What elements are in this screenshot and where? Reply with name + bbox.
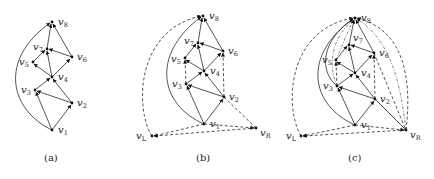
node-label-v5: v5: [19, 56, 29, 69]
node-label-v7: v7: [33, 41, 43, 54]
figure-diagram: v1 v2 v3 v4 v5 v6 v7 v8 (a): [0, 0, 434, 179]
panel-c: v1 v2 v3 v4 v5 v6 v7 v8 vL vR (c): [286, 12, 422, 163]
panel-b-edges: [142, 16, 256, 136]
caption-b: (b): [196, 152, 210, 163]
node-label-v2: v2: [229, 91, 239, 104]
panel-a: v1 v2 v3 v4 v5 v6 v7 v8 (a): [16, 16, 87, 163]
node-label-v6: v6: [228, 45, 238, 58]
node-label-v3: v3: [21, 84, 31, 97]
node-label-v8: v8: [58, 16, 68, 29]
node-label-v3: v3: [323, 80, 333, 93]
node-label-v1: v1: [361, 119, 371, 132]
panel-b: v1 v2 v3 v4 v5 v6 v7 v8 vL vR (b): [136, 10, 272, 163]
node-label-v2: v2: [77, 97, 87, 110]
node-label-v4: v4: [361, 67, 371, 80]
node-label-v1: v1: [210, 118, 220, 131]
node-label-v6: v6: [77, 51, 87, 64]
node-label-v7: v7: [184, 35, 194, 48]
node-label-v1: v1: [58, 124, 68, 137]
node-label-vL: vL: [286, 130, 297, 143]
node-label-v3: v3: [172, 78, 182, 91]
node-label-v4: v4: [58, 71, 68, 84]
node-label-vR: vR: [260, 127, 272, 140]
node-label-v2: v2: [380, 93, 390, 106]
node-label-v6: v6: [379, 47, 389, 60]
node-label-v4: v4: [210, 65, 220, 78]
panel-c-edges: [292, 18, 408, 136]
node-label-vL: vL: [136, 130, 147, 143]
node-label-v5: v5: [171, 53, 181, 66]
node-label-v8: v8: [361, 12, 371, 25]
node-label-v8: v8: [209, 10, 219, 23]
node-label-v7: v7: [353, 32, 363, 45]
node-label-vR: vR: [410, 129, 422, 142]
node-label-v5: v5: [322, 54, 332, 67]
caption-c: (c): [348, 152, 362, 163]
caption-a: (a): [44, 152, 58, 163]
